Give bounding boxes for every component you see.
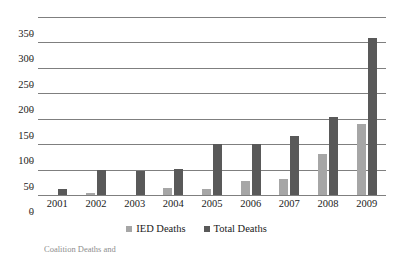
bar-group — [347, 17, 386, 195]
bar — [290, 136, 299, 196]
x-axis-tick-label: 2007 — [279, 197, 300, 211]
bar — [136, 171, 145, 195]
bar — [252, 144, 261, 195]
bar — [318, 154, 327, 195]
bar-chart: 050100150200250300350 200120022003200420… — [0, 0, 393, 253]
x-axis-tick-label: 2009 — [356, 197, 377, 211]
y-axis-tick-mark — [30, 187, 34, 188]
y-axis-tick-mark — [30, 212, 34, 213]
y-axis-tick-mark — [30, 161, 34, 162]
bar-group — [193, 17, 232, 195]
bar — [202, 189, 211, 195]
bar — [368, 38, 377, 195]
bar — [241, 181, 250, 195]
bar — [213, 144, 222, 195]
y-axis-tick-mark — [30, 59, 34, 60]
bar-group — [38, 17, 77, 195]
x-axis-tick-label: 2004 — [163, 197, 184, 211]
y-axis-tick-mark — [30, 85, 34, 86]
bar-group — [270, 17, 309, 195]
legend-item: Total Deaths — [204, 224, 267, 235]
x-axis-tick-label: 2006 — [240, 197, 261, 211]
x-axis-labels: 200120022003200420052006200720082009 — [38, 197, 386, 211]
chart-legend: IED DeathsTotal Deaths — [0, 224, 393, 235]
bar — [329, 117, 338, 195]
bar-group — [309, 17, 348, 195]
bar-group — [231, 17, 270, 195]
bar-group — [77, 17, 116, 195]
y-axis-tick-mark — [30, 34, 34, 35]
bar — [174, 169, 183, 195]
bar — [279, 179, 288, 195]
figure-caption: Coalition Deaths and — [44, 244, 116, 253]
y-axis-labels: 050100150200250300350 — [0, 17, 34, 195]
bar-groups — [38, 17, 386, 195]
bar — [97, 170, 106, 195]
legend-label: Total Deaths — [214, 224, 267, 235]
x-axis-tick-label: 2001 — [47, 197, 68, 211]
x-axis-tick-label: 2003 — [124, 197, 145, 211]
legend-swatch-icon — [126, 226, 132, 232]
y-axis-tick-mark — [30, 136, 34, 137]
legend-item: IED Deaths — [126, 224, 185, 235]
bar-group — [154, 17, 193, 195]
gridline — [38, 195, 386, 196]
legend-label: IED Deaths — [136, 224, 185, 235]
legend-swatch-icon — [204, 226, 210, 232]
y-axis-tick-mark — [30, 110, 34, 111]
bar — [86, 193, 95, 195]
x-axis-tick-label: 2005 — [202, 197, 223, 211]
bar — [58, 189, 67, 195]
bar — [357, 124, 366, 195]
x-axis-tick-label: 2002 — [86, 197, 107, 211]
bar-group — [115, 17, 154, 195]
x-axis-tick-label: 2008 — [318, 197, 339, 211]
bar — [163, 188, 172, 195]
plot-area — [38, 17, 386, 195]
